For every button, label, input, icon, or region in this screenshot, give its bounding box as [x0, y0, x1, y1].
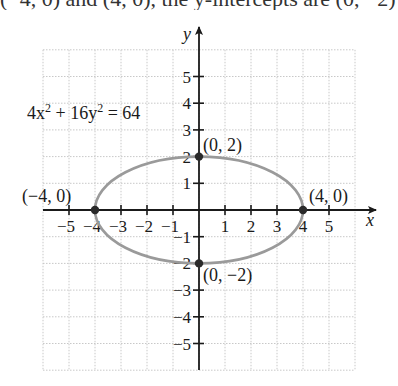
vertex-label: (0, 2) — [203, 135, 242, 156]
x-tick-label: 5 — [325, 217, 334, 236]
x-tick-label: −5 — [57, 217, 75, 236]
y-tick-label: 1 — [183, 174, 192, 193]
y-tick-label: 3 — [183, 121, 192, 140]
y-tick-label: 5 — [183, 68, 192, 87]
vertex-dot — [299, 206, 307, 214]
x-tick-label: 2 — [247, 217, 256, 236]
vertex-label: (−4, 0) — [22, 186, 71, 207]
vertex-dot — [91, 206, 99, 214]
ellipse-graph: −5−4−3−2−112345−5−4−3−2−112345 (−4, 0)(4… — [0, 0, 398, 386]
x-tick-label: −2 — [135, 217, 153, 236]
y-tick-label: 4 — [183, 94, 192, 113]
vertex-label: (4, 0) — [309, 186, 348, 207]
equation-label: 4x2 + 16y2 = 64 — [27, 101, 140, 123]
vertex-dot — [195, 259, 203, 267]
x-axis-label: x — [365, 210, 374, 230]
eq-rhs: = 64 — [103, 103, 140, 123]
x-tick-label: 1 — [221, 217, 230, 236]
y-axis-label: y — [181, 24, 191, 44]
eq-term-b: 16y — [70, 103, 97, 123]
x-tick-label: −3 — [109, 217, 127, 236]
y-tick-label: −4 — [173, 308, 192, 327]
x-tick-label: 3 — [273, 217, 282, 236]
vertex-label: (0, −2) — [203, 265, 252, 286]
vertex-dot — [195, 152, 203, 160]
y-tick-label: −1 — [173, 228, 191, 247]
eq-plus: + — [51, 103, 70, 123]
eq-term-a: 4x — [27, 103, 45, 123]
y-tick-label: −3 — [173, 281, 191, 300]
y-tick-label: −5 — [173, 335, 191, 354]
